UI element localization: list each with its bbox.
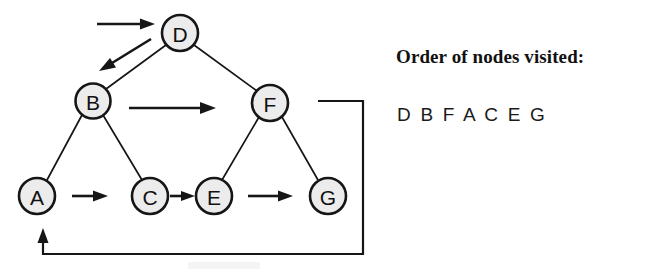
- node-label-a: A: [30, 186, 44, 209]
- binary-tree-traversal-diagram: D B F A C E G: [0, 0, 380, 277]
- tree-node-e[interactable]: E: [196, 178, 232, 214]
- figure-page: D B F A C E G Order of nodes visited: D …: [0, 0, 666, 277]
- tree-edge-d-f: [194, 45, 257, 91]
- tree-node-g[interactable]: G: [310, 178, 346, 214]
- tree-edge-b-c: [103, 115, 142, 180]
- arrow-b-to-f: [129, 102, 216, 114]
- tree-node-b[interactable]: B: [76, 84, 111, 119]
- tree-edge-b-a: [47, 115, 82, 180]
- tree-node-f[interactable]: F: [252, 85, 288, 121]
- scan-artifact: [188, 262, 260, 269]
- tree-node-d[interactable]: D: [162, 15, 198, 51]
- entry-arrow-to-d: [97, 19, 155, 30]
- caption-title: Order of nodes visited:: [396, 46, 584, 68]
- arrow-c-to-e: [170, 191, 195, 201]
- tree-node-a[interactable]: A: [19, 178, 55, 214]
- arrow-e-to-g: [248, 191, 293, 202]
- entry-arrow-head: [140, 19, 155, 30]
- arrow-a-to-c-head: [93, 191, 108, 202]
- wrap-loop-head: [38, 228, 49, 243]
- arrow-g-wrap-to-a: [38, 101, 364, 254]
- node-label-c: C: [142, 186, 157, 209]
- arrow-d-to-b-head: [99, 58, 116, 71]
- tree-edge-f-e: [222, 117, 259, 180]
- visit-order-sequence: D B F A C E G: [397, 104, 547, 126]
- arrow-e-to-g-head: [278, 191, 293, 202]
- wrap-loop-path: [43, 101, 363, 254]
- arrow-a-to-c: [72, 191, 108, 202]
- caption-area: Order of nodes visited: D B F A C E G: [396, 0, 666, 277]
- node-label-f: F: [264, 93, 277, 116]
- node-label-e: E: [207, 186, 221, 209]
- tree-edge-f-g: [282, 117, 318, 180]
- node-label-d: D: [172, 23, 187, 46]
- arrow-c-to-e-head: [181, 191, 195, 201]
- arrow-d-to-b: [99, 39, 151, 71]
- node-label-b: B: [86, 91, 100, 114]
- node-label-g: G: [320, 186, 336, 209]
- tree-node-c[interactable]: C: [132, 178, 168, 214]
- arrow-b-to-f-head: [200, 102, 216, 114]
